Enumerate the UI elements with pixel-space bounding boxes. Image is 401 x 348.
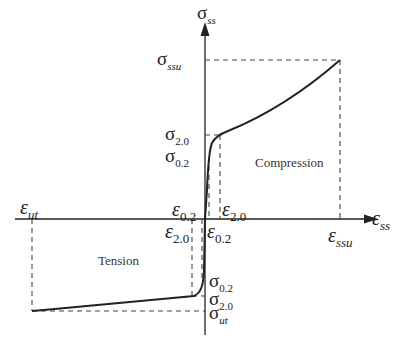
sigma-ut-label: σut <box>209 303 228 326</box>
sigma-ut-subscript: ut <box>219 314 228 326</box>
tension-region-label: Tension <box>98 254 139 267</box>
eps-20-c-label: ε2.0 <box>222 199 246 223</box>
sigma-20-c-symbol: σ <box>165 123 175 144</box>
eps-02-c-symbol: ε <box>207 220 215 242</box>
sigma-02-c-subscript: 0.2 <box>175 157 189 169</box>
sigma-20-c-label: σ2.0 <box>165 124 189 147</box>
compression-curve <box>205 60 340 219</box>
sigma-ssu-label: σssu <box>157 49 181 72</box>
x-axis-subscript: ss <box>380 218 390 233</box>
sigma-02-c-symbol: σ <box>165 145 175 166</box>
eps-ut-symbol: ε <box>20 196 28 218</box>
eps-02-c-subscript: 0.2 <box>215 231 231 246</box>
eps-02-c-label: ε0.2 <box>207 221 231 245</box>
x-axis-symbol: ε <box>372 207 380 229</box>
eps-ut-subscript: ut <box>28 207 38 222</box>
compression-region-label: Compression <box>255 156 324 169</box>
eps-20-t-subscript: 2.0 <box>173 231 189 246</box>
y-axis-subscript: ss <box>207 14 216 26</box>
eps-20-c-symbol: ε <box>222 198 230 220</box>
eps-02-t-symbol: ε <box>172 198 180 220</box>
eps-20-t-label: ε2.0 <box>165 221 189 245</box>
eps-ssu-subscript: ssu <box>336 235 353 250</box>
eps-ssu-label: εssu <box>328 225 353 249</box>
eps-02-t-label: ε0.2 <box>172 199 196 223</box>
x-axis-label: εss <box>372 208 390 232</box>
stress-strain-diagram <box>0 0 401 348</box>
sigma-ssu-subscript: ssu <box>167 60 181 72</box>
sigma-02-c-label: σ0.2 <box>165 146 189 169</box>
y-axis-symbol: σ <box>197 2 207 23</box>
eps-20-c-subscript: 2.0 <box>230 209 246 224</box>
eps-ssu-symbol: ε <box>328 224 336 246</box>
y-axis-label: σss <box>197 3 216 26</box>
sigma-ut-symbol: σ <box>209 302 219 323</box>
eps-20-t-symbol: ε <box>165 220 173 242</box>
eps-ut-label: εut <box>20 197 38 221</box>
sigma-ssu-symbol: σ <box>157 48 167 69</box>
